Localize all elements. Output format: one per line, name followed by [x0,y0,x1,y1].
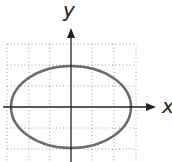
y-axis-arrow-icon [67,28,75,38]
ellipse-diagram: x y [0,0,172,162]
x-axis-arrow-icon [146,103,156,111]
y-axis-label: y [62,0,76,22]
x-axis-label: x [161,94,172,118]
x-axis [3,103,156,111]
y-axis [67,28,75,162]
